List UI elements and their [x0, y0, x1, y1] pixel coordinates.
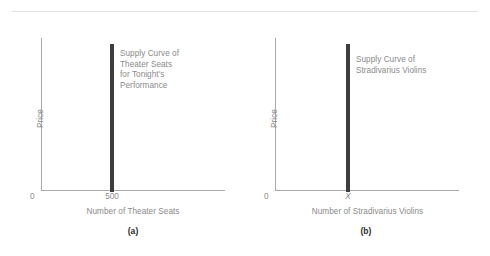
supply-curve-line: [110, 44, 114, 190]
supply-curve-line: [346, 44, 350, 190]
panel-b-stradivarius-violins: Supply Curve of Stradivarius Violins Pri…: [245, 0, 490, 256]
x-axis-tick-label: X: [328, 192, 368, 201]
x-axis-label: Number of Theater Seats: [53, 207, 213, 216]
panel-a-theater-seats: Supply Curve of Theater Seats for Tonigh…: [0, 0, 245, 256]
origin-label: 0: [30, 192, 35, 201]
y-axis-label: Price: [36, 109, 45, 128]
x-axis-tick-label: 500: [92, 192, 132, 201]
supply-curve-annotation: Supply Curve of Stradivarius Violins: [356, 55, 466, 76]
x-axis-line: [41, 190, 225, 191]
supply-curve-annotation: Supply Curve of Theater Seats for Tonigh…: [120, 49, 225, 91]
x-axis-line: [275, 190, 459, 191]
panel-caption-a: (a): [93, 226, 173, 236]
panel-caption-b: (b): [326, 226, 406, 236]
y-axis-label: Price: [270, 109, 279, 128]
origin-label: 0: [264, 192, 269, 201]
supply-curve-figure: Supply Curve of Theater Seats for Tonigh…: [0, 0, 490, 256]
x-axis-label: Number of Stradivarius Violins: [280, 207, 455, 216]
